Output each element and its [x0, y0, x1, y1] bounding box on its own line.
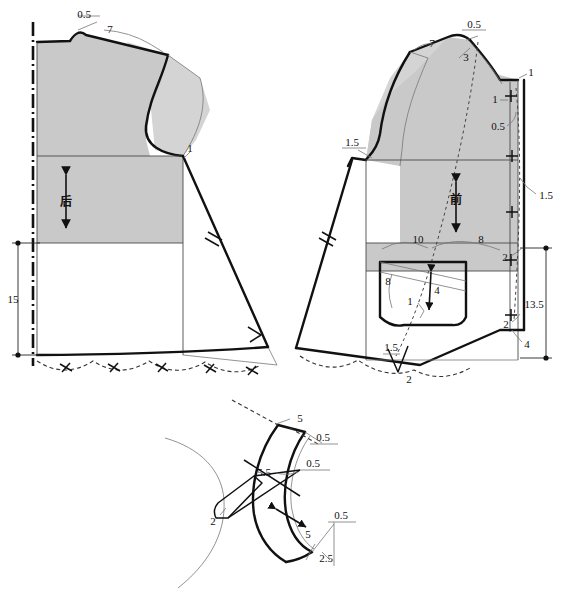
label-front-placket-width: 0.5 — [491, 120, 505, 132]
label-collar-neck-point: 2 — [210, 515, 216, 527]
label-front-pocket-side: 8 — [385, 275, 391, 287]
label-front-side-notch: 1.5 — [345, 136, 359, 148]
label-back-armhole-drop: 1 — [187, 142, 193, 154]
label-collar-bottom-drop: 2.5 — [319, 552, 333, 564]
label-collar-bottom-length: 5 — [305, 528, 311, 540]
label-collar-band-length: 5.5 — [257, 466, 271, 478]
label-front-hem-height: 13.5 — [524, 298, 544, 310]
label-front-placket-edge: 1.5 — [539, 189, 553, 201]
label-front-placket-top: 1 — [528, 66, 534, 78]
label-back-hem-length: 15 — [8, 293, 20, 305]
label-collar-top-length: 5 — [297, 412, 303, 424]
label-front-piece-name: 前 — [450, 192, 462, 207]
label-front-shoulder-width: 7 — [429, 37, 435, 49]
label-front-hem-offset: 4 — [524, 338, 530, 350]
label-front-dart-height: 1.5 — [384, 341, 398, 353]
label-back-piece-name: 后 — [60, 194, 72, 209]
label-front-hem-step-lower: 2 — [503, 318, 509, 330]
label-back-shoulder-width: 7 — [107, 23, 113, 35]
front-lower-band-fill — [366, 243, 518, 271]
label-front-neck-depth: 3 — [463, 51, 469, 63]
label-back-shoulder-rise: 0.5 — [77, 8, 91, 20]
label-front-pocket-corner: 1 — [407, 295, 413, 307]
label-front-pocket-top-left: 10 — [413, 233, 425, 245]
label-front-placket-button: 1 — [492, 93, 498, 105]
pattern-drawing: .fill{fill:#c9c9c9;} .fill2{fill:#d4d4d4… — [0, 0, 570, 613]
label-front-shoulder-rise: 0.5 — [467, 18, 481, 30]
pattern-diagram-canvas: .fill{fill:#c9c9c9;} .fill2{fill:#d4d4d4… — [0, 0, 570, 613]
label-front-hem-step-upper: 2 — [502, 251, 508, 263]
label-front-pocket-depth: 4 — [434, 284, 440, 296]
label-collar-bottom-rise: 0.5 — [334, 509, 348, 521]
label-collar-mid-rise: 0.5 — [306, 457, 320, 469]
label-front-pocket-top-right: 8 — [478, 233, 484, 245]
label-front-dart-width: 2 — [406, 373, 412, 385]
label-collar-top-rise: 0.5 — [316, 431, 330, 443]
